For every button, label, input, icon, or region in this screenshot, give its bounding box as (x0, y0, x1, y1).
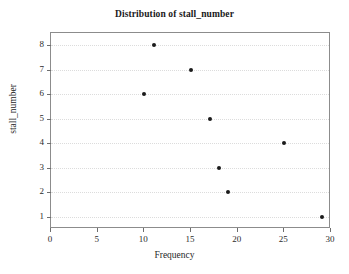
x-axis-label: Frequency (0, 250, 349, 260)
data-point (282, 141, 286, 145)
y-tick-mark (47, 70, 51, 71)
x-tick-label: 15 (186, 234, 195, 244)
y-tick-label: 6 (28, 88, 44, 98)
y-tick-mark (47, 217, 51, 218)
y-axis-tick-labels: 12345678 (28, 32, 44, 228)
y-tick-mark (47, 94, 51, 95)
data-point (189, 68, 193, 72)
data-point (217, 166, 221, 170)
y-tick-label: 1 (28, 211, 44, 221)
x-tick-mark (190, 228, 191, 232)
gridline-horizontal (51, 217, 329, 218)
gridline-horizontal (51, 119, 329, 120)
x-tick-label: 30 (326, 234, 335, 244)
y-tick-mark (47, 119, 51, 120)
data-point (226, 190, 230, 194)
y-tick-label: 5 (28, 113, 44, 123)
gridline-horizontal (51, 94, 329, 95)
data-point (142, 92, 146, 96)
y-tick-mark (47, 143, 51, 144)
y-tick-label: 2 (28, 186, 44, 196)
data-point (208, 117, 212, 121)
y-tick-label: 4 (28, 137, 44, 147)
x-tick-mark (330, 228, 331, 232)
y-tick-label: 7 (28, 64, 44, 74)
y-tick-mark (47, 168, 51, 169)
gridline-horizontal (51, 192, 329, 193)
y-tick-mark (47, 45, 51, 46)
gridline-horizontal (51, 143, 329, 144)
y-tick-label: 3 (28, 162, 44, 172)
data-point (320, 215, 324, 219)
x-tick-label: 25 (279, 234, 288, 244)
x-tick-mark (283, 228, 284, 232)
x-tick-label: 0 (48, 234, 53, 244)
x-tick-label: 5 (94, 234, 99, 244)
y-tick-label: 8 (28, 39, 44, 49)
x-tick-label: 20 (232, 234, 241, 244)
x-tick-mark (50, 228, 51, 232)
x-tick-mark (237, 228, 238, 232)
chart-figure: Distribution of stall_number 12345678 st… (0, 0, 349, 274)
chart-title: Distribution of stall_number (0, 9, 349, 19)
y-tick-mark (47, 192, 51, 193)
x-tick-label: 10 (139, 234, 148, 244)
gridline-horizontal (51, 168, 329, 169)
y-axis-label: stall_number (8, 49, 18, 169)
plot-inner (51, 33, 329, 227)
data-point (152, 43, 156, 47)
gridline-horizontal (51, 45, 329, 46)
x-tick-mark (97, 228, 98, 232)
plot-area (50, 32, 330, 228)
x-axis-tick-labels: 051015202530 (50, 228, 330, 248)
x-tick-mark (143, 228, 144, 232)
